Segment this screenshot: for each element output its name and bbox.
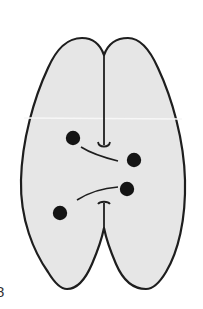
scan-line-artifact <box>24 118 182 119</box>
panel-label: 8 <box>0 284 4 299</box>
dot-4 <box>53 206 67 220</box>
dot-1 <box>66 131 80 145</box>
cell-diagram <box>0 0 203 309</box>
cell-outline <box>21 38 185 289</box>
dot-3 <box>120 182 134 196</box>
dot-2 <box>127 153 141 167</box>
